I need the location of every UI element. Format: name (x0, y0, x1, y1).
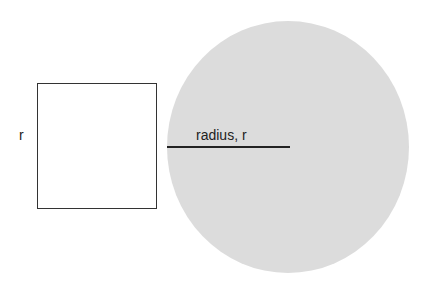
radius-line (167, 146, 290, 148)
radius-label: radius, r (196, 127, 247, 143)
square-side-label: r (19, 127, 24, 143)
square-shape (37, 83, 157, 209)
